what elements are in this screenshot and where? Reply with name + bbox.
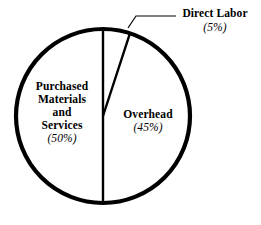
slice-label-line-4: Services [14, 119, 110, 132]
pie-chart: Purchased Materials and Services (50%) O… [0, 0, 261, 225]
slice-label-line-3: and [14, 106, 110, 119]
slice-label-overhead: Overhead (45%) [108, 108, 188, 135]
slice-label-purchased-materials-and-services: Purchased Materials and Services (50%) [14, 80, 110, 146]
slice-label-line-1: Direct Labor [170, 7, 260, 21]
slice-label-percent: (45%) [108, 121, 188, 135]
slice-label-line-1: Overhead [108, 108, 188, 121]
slice-label-line-1: Purchased [14, 80, 110, 93]
slice-label-direct-labor: Direct Labor (5%) [170, 7, 260, 34]
direct-labor-leader-line [128, 16, 176, 28]
slice-label-percent: (50%) [14, 132, 110, 146]
slice-label-percent: (5%) [170, 21, 260, 35]
slice-label-line-2: Materials [14, 93, 110, 106]
